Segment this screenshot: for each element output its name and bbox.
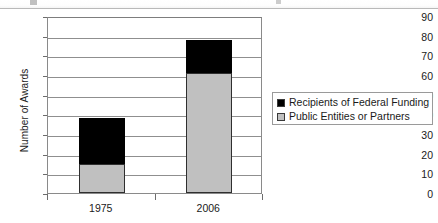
bar-segment (79, 164, 125, 194)
bar-2006 (186, 16, 232, 193)
x-tick-mark (47, 194, 48, 200)
y-tick-label: 30 (394, 130, 438, 140)
x-tick-label: 1975 (89, 202, 112, 214)
bar-segment (79, 118, 125, 163)
legend-label: Recipients of Federal Funding (289, 97, 429, 108)
y-tick-mark (43, 115, 47, 116)
y-tick-mark (43, 56, 47, 57)
bar-segment (186, 40, 232, 73)
legend-swatch-icon (277, 99, 285, 107)
x-axis: 19752006 (47, 194, 262, 220)
x-tick-label: 2006 (197, 202, 220, 214)
y-tick-mark (43, 155, 47, 156)
y-tick-mark (43, 37, 47, 38)
y-tick-label: 70 (394, 51, 438, 61)
page-edge-artifact (0, 0, 438, 9)
legend-swatch-icon (277, 113, 285, 121)
y-tick-mark (43, 96, 47, 97)
y-tick-label: 80 (394, 32, 438, 42)
y-tick-label: 60 (394, 71, 438, 81)
legend-item: Recipients of Federal Funding (277, 96, 432, 109)
plot-area (47, 17, 262, 194)
legend-item: Public Entities or Partners (277, 110, 432, 123)
y-tick-mark (43, 174, 47, 175)
y-tick-mark (43, 76, 47, 77)
y-tick-label: 20 (394, 150, 438, 160)
bar-1975 (79, 16, 125, 193)
chart-legend: Recipients of Federal FundingPublic Enti… (272, 92, 433, 125)
bar-segment (186, 73, 232, 193)
y-tick-mark (43, 17, 47, 18)
y-tick-label: 0 (394, 189, 438, 199)
legend-label: Public Entities or Partners (289, 111, 410, 122)
y-tick-label: 90 (394, 12, 438, 22)
y-tick-label: 10 (394, 169, 438, 179)
stacked-bar-chart: Number of Awards 9080706050403020100 197… (0, 0, 438, 223)
x-tick-mark (262, 194, 263, 200)
y-tick-mark (43, 135, 47, 136)
x-tick-mark (155, 194, 156, 200)
y-axis-title: Number of Awards (19, 36, 30, 186)
